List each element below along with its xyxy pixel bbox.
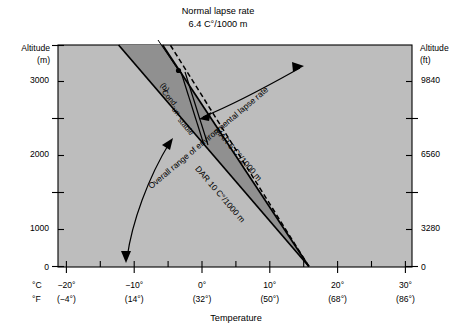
right-axis-label-3280: 3280	[421, 223, 440, 233]
left-axis-label-2000: 2000	[30, 149, 49, 159]
right-axis-title-line1: Altitude	[420, 43, 449, 53]
x-axis-c-label-3: 10°	[263, 280, 276, 290]
normal-lapse-rate-title-line2: 6.4 C°/1000 m	[189, 19, 248, 29]
celsius-unit-label: °C	[32, 280, 42, 290]
left-axis-title-line2: (m)	[37, 55, 50, 65]
x-axis-c-label-4: 20°	[331, 280, 344, 290]
x-axis-f-label-4: (68°)	[328, 294, 347, 304]
right-axis-label-0: 0	[421, 262, 426, 272]
left-axis-label-1000: 1000	[30, 223, 49, 233]
x-axis-f-label-3: (50°)	[260, 294, 279, 304]
x-axis-f-label-2: (32°)	[193, 294, 212, 304]
x-axis-f-label-5: (86°)	[396, 294, 415, 304]
x-axis-c-label-0: −20°	[57, 280, 75, 290]
right-axis-label-6560: 6560	[421, 149, 440, 159]
x-axis-f-label-1: (14°)	[125, 294, 144, 304]
normal-lapse-rate-title-line1: Normal lapse rate	[182, 6, 255, 16]
left-axis-label-0: 0	[44, 262, 49, 272]
lapse-rate-diagram: Normal lapse rate 6.4 C°/1000 m Altitude…	[0, 0, 465, 327]
x-axis-title: Temperature	[210, 313, 262, 323]
left-axis-title-line1: Altitude	[21, 43, 50, 53]
right-axis-label-9840: 9840	[421, 75, 440, 85]
right-axis-title-line2: (ft)	[420, 55, 431, 65]
x-axis-c-label-5: 30°	[399, 280, 412, 290]
x-axis-c-label-1: −10°	[125, 280, 143, 290]
x-axis-c-label-2: 0°	[198, 280, 206, 290]
fahrenheit-unit-label: °F	[32, 294, 41, 304]
left-axis-label-3000: 3000	[30, 75, 49, 85]
x-axis-f-label-0: (−4°)	[57, 294, 76, 304]
